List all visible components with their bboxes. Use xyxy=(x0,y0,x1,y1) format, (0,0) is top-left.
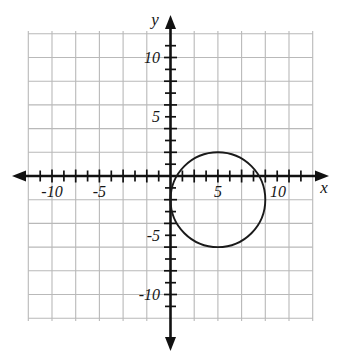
x-tick-label-neg10: -10 xyxy=(41,183,62,200)
y-tick-label-neg10: -10 xyxy=(139,286,160,303)
x-axis-arrow-left xyxy=(12,170,26,181)
y-axis-arrow-up xyxy=(165,15,176,29)
y-tick-label-10: 10 xyxy=(144,49,160,66)
x-tick-label-5: 5 xyxy=(214,183,222,200)
y-tick-label-5: 5 xyxy=(152,108,160,125)
x-axis-label: x xyxy=(319,178,328,197)
y-axis-arrow-down xyxy=(165,337,176,351)
y-axis-label: y xyxy=(149,10,159,29)
coordinate-plane-figure: -10 -5 5 10 10 5 -5 -10 x y xyxy=(0,0,341,362)
x-tick-label-neg5: -5 xyxy=(93,183,106,200)
graph-canvas: -10 -5 5 10 10 5 -5 -10 x y xyxy=(0,0,341,362)
y-tick-label-neg5: -5 xyxy=(147,227,160,244)
x-tick-label-10: 10 xyxy=(270,183,286,200)
